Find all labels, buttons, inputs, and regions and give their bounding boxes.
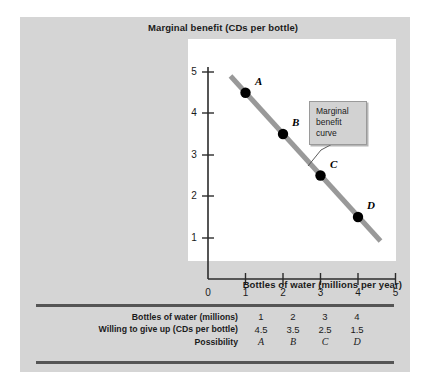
cell-willing-4: 1.5 (341, 324, 373, 337)
marginal-benefit-curve-callout: Marginal benefit curve (309, 101, 367, 145)
table-row: Possibility A B C D (36, 336, 394, 349)
point-label-b: B (292, 116, 299, 128)
cell-willing-3: 2.5 (309, 324, 341, 337)
row-header-bottles: Bottles of water (millions) (36, 311, 245, 324)
chart-area: Marginal benefit (CDs per bottle) (20, 17, 410, 302)
callout-line-2: benefit (316, 117, 361, 128)
point-label-d: D (367, 199, 375, 211)
cell-bottles-1: 1 (245, 311, 277, 324)
cell-willing-1: 4.5 (245, 324, 277, 337)
data-point-b (278, 129, 288, 139)
table-grid: Bottles of water (millions) 1 2 3 4 Will… (36, 311, 394, 349)
callout-line-3: curve (316, 128, 361, 139)
table-row: Bottles of water (millions) 1 2 3 4 (36, 311, 394, 324)
data-point-d (353, 212, 363, 222)
data-point-c (315, 170, 325, 180)
y-tick-label-1: 1 (186, 232, 202, 243)
callout-leader-line (308, 150, 321, 166)
y-tick-label-5: 5 (186, 66, 202, 77)
x-axis-title: Bottles of water (millions per year) (180, 279, 410, 290)
figure-panel: Marginal benefit (CDs per bottle) (20, 17, 410, 372)
cell-pad-1 (373, 311, 394, 324)
cell-bottles-2: 2 (277, 311, 309, 324)
cell-pad-3 (373, 336, 394, 349)
cell-possibility-2: B (277, 336, 309, 349)
y-tick-label-2: 2 (186, 190, 202, 201)
cell-pad-2 (373, 324, 394, 337)
chart-plot (20, 17, 410, 302)
cell-bottles-3: 3 (309, 311, 341, 324)
cell-bottles-4: 4 (341, 311, 373, 324)
row-header-possibility: Possibility (36, 336, 245, 349)
table-rule-bottom (36, 361, 394, 364)
point-label-a: A (255, 75, 262, 87)
cell-possibility-3: C (309, 336, 341, 349)
data-table: Bottles of water (millions) 1 2 3 4 Will… (36, 302, 394, 368)
callout-line-1: Marginal (316, 106, 361, 117)
y-tick-label-3: 3 (186, 149, 202, 160)
table-rule-top (36, 304, 394, 307)
cell-willing-2: 3.5 (277, 324, 309, 337)
cell-possibility-4: D (341, 336, 373, 349)
row-header-willing: Willing to give up (CDs per bottle) (36, 324, 245, 337)
y-tick-label-4: 4 (186, 107, 202, 118)
data-point-a (240, 88, 250, 98)
point-label-c: C (330, 158, 337, 170)
cell-possibility-1: A (245, 336, 277, 349)
table-row: Willing to give up (CDs per bottle) 4.5 … (36, 324, 394, 337)
